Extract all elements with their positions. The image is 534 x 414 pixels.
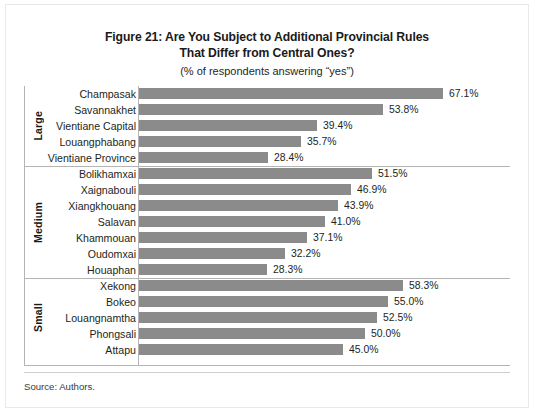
bar-value-label: 67.1%: [449, 86, 478, 102]
source-divider: [24, 372, 510, 373]
bar-row: Champasak67.1%: [24, 86, 510, 102]
bar-row: Vientiane Province28.4%: [24, 150, 510, 166]
bar-row: Louangphabang35.7%: [24, 134, 510, 150]
bar-row: Attapu45.0%: [24, 342, 510, 358]
category-label: Attapu: [105, 342, 136, 358]
bar: [139, 232, 307, 243]
category-label: Oudomxai: [88, 246, 136, 262]
bar-value-label: 28.3%: [273, 262, 302, 278]
bar: [139, 152, 268, 163]
bar-row: Xaignabouli46.9%: [24, 182, 510, 198]
bar-value-label: 46.9%: [357, 182, 386, 198]
bar-row: Salavan41.0%: [24, 214, 510, 230]
category-label: Bokeo: [106, 294, 136, 310]
bar: [139, 104, 383, 115]
bar-value-label: 53.8%: [389, 102, 418, 118]
bar-row: Vientiane Capital39.4%: [24, 118, 510, 134]
category-label: Louangphabang: [59, 134, 136, 150]
bar: [139, 344, 343, 355]
category-label: Houaphan: [87, 262, 136, 278]
bar-row: Bolikhamxai51.5%: [24, 166, 510, 182]
bar-value-label: 37.1%: [313, 230, 342, 246]
bar: [139, 216, 325, 227]
category-label: Savannakhet: [74, 102, 136, 118]
bar-value-label: 52.5%: [383, 310, 412, 326]
bar-value-label: 50.0%: [371, 326, 400, 342]
bar-value-label: 28.4%: [274, 150, 303, 166]
bar-chart-plot-area: LargeChampasak67.1%Savannakhet53.8%Vient…: [24, 86, 510, 366]
bar: [139, 168, 372, 179]
bar-value-label: 35.7%: [307, 134, 336, 150]
category-label: Xiangkhouang: [68, 198, 136, 214]
bar: [139, 136, 301, 147]
bar: [139, 328, 365, 339]
bar-row: Bokeo55.0%: [24, 294, 510, 310]
size-group-medium: MediumBolikhamxai51.5%Xaignabouli46.9%Xi…: [24, 166, 510, 278]
size-group-large: LargeChampasak67.1%Savannakhet53.8%Vient…: [24, 86, 510, 166]
bar: [139, 264, 267, 275]
source-note: Source: Authors.: [24, 381, 95, 392]
bar: [139, 184, 351, 195]
bar: [139, 120, 317, 131]
bottom-axis-line: [24, 365, 510, 366]
bar-value-label: 43.9%: [344, 198, 373, 214]
category-label: Xaignabouli: [81, 182, 136, 198]
bar-row: Houaphan28.3%: [24, 262, 510, 278]
bar-value-label: 51.5%: [378, 166, 407, 182]
bar-row: Phongsali50.0%: [24, 326, 510, 342]
bar-row: Xekong58.3%: [24, 278, 510, 294]
figure-titles: Figure 21: Are You Subject to Additional…: [0, 30, 534, 79]
bar: [139, 200, 338, 211]
bar-value-label: 32.2%: [291, 246, 320, 262]
bar-value-label: 58.3%: [409, 278, 438, 294]
figure-subtitle: (% of respondents answering “yes”): [0, 64, 534, 79]
bar-row: Savannakhet53.8%: [24, 102, 510, 118]
figure-21-container: Figure 21: Are You Subject to Additional…: [0, 0, 534, 414]
category-label: Vientiane Province: [48, 150, 136, 166]
figure-title-line-2: That Differ from Central Ones?: [0, 46, 534, 62]
size-group-small: SmallXekong58.3%Bokeo55.0%Louangnamtha52…: [24, 278, 510, 358]
bar: [139, 248, 285, 259]
category-label: Khammouan: [76, 230, 136, 246]
bar: [139, 296, 388, 307]
category-label: Vientiane Capital: [56, 118, 136, 134]
category-label: Salavan: [98, 214, 136, 230]
figure-title-line-1: Figure 21: Are You Subject to Additional…: [0, 30, 534, 46]
bar: [139, 88, 443, 99]
bar-row: Khammouan37.1%: [24, 230, 510, 246]
category-label: Bolikhamxai: [79, 166, 136, 182]
bar-value-label: 55.0%: [394, 294, 423, 310]
category-label: Champasak: [79, 86, 136, 102]
bar-row: Xiangkhouang43.9%: [24, 198, 510, 214]
bar: [139, 312, 377, 323]
bar-value-label: 45.0%: [349, 342, 378, 358]
category-label: Louangnamtha: [65, 310, 136, 326]
bar: [139, 280, 403, 291]
category-label: Phongsali: [89, 326, 136, 342]
bar-value-label: 41.0%: [331, 214, 360, 230]
category-label: Xekong: [100, 278, 136, 294]
bar-row: Louangnamtha52.5%: [24, 310, 510, 326]
bar-value-label: 39.4%: [323, 118, 352, 134]
bar-row: Oudomxai32.2%: [24, 246, 510, 262]
